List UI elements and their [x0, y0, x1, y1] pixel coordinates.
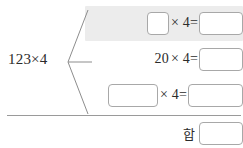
row-2-operand-value: 20 [155, 51, 169, 67]
sum-row: 합 [85, 120, 243, 146]
row-3-answer-blank[interactable] [188, 84, 243, 107]
math-worksheet: 123×4 × 4= 20 × 4= × 4= 합 [0, 0, 243, 148]
sum-label: 합 [183, 124, 195, 143]
left-operand-label: 123×4 [8, 51, 66, 68]
row-1-operator-text: × 4= [171, 15, 198, 31]
decomposition-row-1: × 4= [85, 8, 243, 38]
row-2-answer-blank[interactable] [199, 48, 243, 71]
sum-answer-blank[interactable] [199, 122, 243, 145]
sum-divider-rule [7, 115, 241, 116]
row-1-operand-blank[interactable] [147, 12, 169, 35]
row-2-operator-text: × 4= [171, 51, 198, 67]
row-3-operand-blank[interactable] [108, 84, 158, 107]
decomposition-row-2: 20 × 4= [85, 44, 243, 74]
row-3-operator-text: × 4= [160, 87, 187, 103]
row-1-answer-blank[interactable] [199, 12, 243, 35]
decomposition-row-3: × 4= [85, 80, 243, 110]
